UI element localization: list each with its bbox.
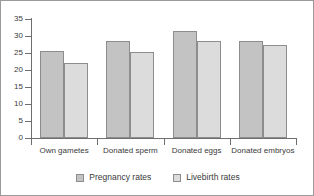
x-axis-tick [296, 139, 297, 145]
x-axis-category-label: Own gametes [31, 146, 97, 156]
y-axis-tick-label: 20 [5, 66, 23, 74]
x-axis-category-label: Donated embryos [230, 146, 296, 156]
x-axis-tick [97, 139, 98, 145]
bar-livebirth [197, 41, 221, 138]
x-axis-tick [230, 139, 231, 145]
x-axis-tick [164, 139, 165, 145]
x-axis-category-label: Donated eggs [164, 146, 230, 156]
bar-livebirth [263, 45, 287, 138]
legend-item: Pregnancy rates [76, 173, 151, 182]
bar-pregnancy [239, 41, 263, 138]
x-axis-category-label: Donated sperm [97, 146, 163, 156]
bar-pregnancy [173, 31, 197, 138]
x-axis-tick [31, 139, 32, 145]
legend-label: Pregnancy rates [89, 173, 151, 182]
plot-area [31, 19, 296, 138]
legend-label: Livebirth rates [186, 173, 239, 182]
bar-pregnancy [40, 51, 64, 138]
y-axis-tick-label: 15 [5, 83, 23, 91]
y-axis-tick-label: 5 [5, 117, 23, 125]
legend-swatch-icon [173, 174, 181, 182]
y-axis-tick-label: 0 [5, 134, 23, 142]
legend-item: Livebirth rates [173, 173, 239, 182]
bar-livebirth [130, 52, 154, 138]
bar-chart-figure: 05101520253035 Own gametesDonated spermD… [0, 0, 314, 196]
y-axis-tick-label: 25 [5, 49, 23, 57]
legend-swatch-icon [76, 174, 84, 182]
bar-pregnancy [106, 41, 130, 138]
bar-livebirth [64, 63, 88, 138]
y-axis-tick-label: 35 [5, 15, 23, 23]
y-axis-tick-label: 10 [5, 100, 23, 108]
chart-legend: Pregnancy ratesLivebirth rates [1, 173, 314, 182]
y-axis-tick-label: 30 [5, 32, 23, 40]
